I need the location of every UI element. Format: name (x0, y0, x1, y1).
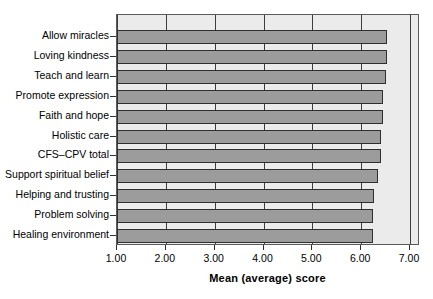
y-axis-label: Promote expression (0, 89, 109, 101)
bar (117, 149, 381, 163)
plot-panel (116, 14, 419, 245)
y-axis-tick (110, 36, 116, 37)
x-axis-tick-label: 2.00 (145, 252, 185, 264)
bar (117, 30, 387, 44)
bar (117, 130, 381, 144)
x-axis-tick-label: 6.00 (340, 252, 380, 264)
bar (117, 70, 386, 84)
y-axis-tick (110, 155, 116, 156)
bars-group (117, 15, 418, 244)
y-axis-label: Loving kindness (0, 49, 109, 61)
bar (117, 110, 383, 124)
y-axis-label: Holistic care (0, 129, 109, 141)
bar (117, 169, 378, 183)
x-axis-tick (116, 245, 117, 250)
x-axis-tick (409, 245, 410, 250)
x-axis-tick (214, 245, 215, 250)
y-axis-label: Support spiritual belief (0, 168, 109, 180)
y-axis-tick (110, 195, 116, 196)
y-axis-tick (110, 76, 116, 77)
bar (117, 209, 373, 223)
y-axis-label: Healing environment (0, 228, 109, 240)
x-axis-tick (311, 245, 312, 250)
x-axis-tick-label: 4.00 (243, 252, 283, 264)
y-axis-label: Allow miracles (0, 29, 109, 41)
y-axis-tick (110, 215, 116, 216)
x-axis-tick-label: 7.00 (389, 252, 429, 264)
y-axis-tick (110, 136, 116, 137)
y-axis-label: Problem solving (0, 208, 109, 220)
y-axis-label: Faith and hope (0, 109, 109, 121)
y-axis-labels: Allow miraclesLoving kindnessTeach and l… (0, 0, 109, 299)
y-axis-label: Teach and learn (0, 69, 109, 81)
y-axis-label: Helping and trusting (0, 188, 109, 200)
x-axis-tick (360, 245, 361, 250)
x-axis-tick (263, 245, 264, 250)
bar (117, 189, 374, 203)
y-axis-tick (110, 56, 116, 57)
y-axis-tick (110, 235, 116, 236)
y-axis-tick (110, 175, 116, 176)
x-axis-tick-label: 3.00 (194, 252, 234, 264)
bar-chart: Allow miraclesLoving kindnessTeach and l… (0, 0, 433, 299)
y-axis-tick (110, 116, 116, 117)
x-axis-tick-label: 5.00 (291, 252, 331, 264)
bar (117, 229, 373, 243)
y-axis-tick (110, 96, 116, 97)
y-axis-label: CFS–CPV total (0, 148, 109, 160)
x-axis-tick-label: 1.00 (96, 252, 136, 264)
bar (117, 50, 387, 64)
bar (117, 90, 383, 104)
x-axis-title: Mean (average) score (116, 272, 419, 284)
x-axis-tick (165, 245, 166, 250)
